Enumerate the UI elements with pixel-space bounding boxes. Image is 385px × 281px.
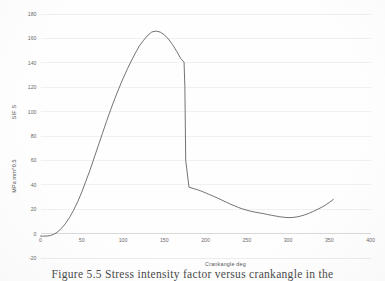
x-axis-ticks: 050100150200250300350400 (39, 237, 375, 243)
svg-text:250: 250 (242, 237, 251, 243)
svg-text:-20: -20 (29, 255, 37, 261)
svg-text:160: 160 (28, 35, 37, 41)
svg-text:300: 300 (284, 237, 293, 243)
figure-caption-text: Figure 5.5 Stress intensity factor versu… (52, 268, 334, 281)
svg-text:Crankangle deg: Crankangle deg (205, 261, 246, 267)
svg-text:60: 60 (31, 157, 37, 163)
svg-text:0: 0 (39, 237, 42, 243)
axis-titles: Crankangle degSIF SMPa mm^0.5 (11, 105, 246, 267)
svg-text:180: 180 (28, 11, 37, 17)
svg-text:120: 120 (28, 84, 37, 90)
grid-lines (41, 14, 371, 258)
svg-text:200: 200 (201, 237, 210, 243)
svg-text:50: 50 (79, 237, 85, 243)
svg-text:MPa mm^0.5: MPa mm^0.5 (11, 159, 17, 193)
svg-text:SIF S: SIF S (11, 105, 17, 120)
svg-text:140: 140 (28, 60, 37, 66)
svg-text:80: 80 (31, 133, 37, 139)
svg-text:40: 40 (31, 182, 37, 188)
svg-text:150: 150 (160, 237, 169, 243)
svg-text:350: 350 (325, 237, 334, 243)
figure-caption: Figure 5.5 Stress intensity factor versu… (0, 268, 385, 281)
y-axis-ticks: -20020406080100120140160180 (28, 11, 37, 261)
data-series (41, 31, 334, 236)
svg-text:100: 100 (119, 237, 128, 243)
sif-crankangle-chart: -20020406080100120140160180 050100150200… (0, 0, 385, 281)
svg-text:20: 20 (31, 206, 37, 212)
svg-text:400: 400 (366, 237, 375, 243)
svg-text:0: 0 (34, 231, 37, 237)
figure-container: -20020406080100120140160180 050100150200… (0, 0, 385, 281)
svg-text:100: 100 (28, 109, 37, 115)
